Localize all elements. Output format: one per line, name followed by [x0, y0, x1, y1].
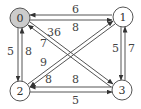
weight-label-0-3: 36 [47, 26, 61, 39]
weight-label-1-2: 8 [45, 73, 52, 86]
graph-diagram: 6 8 36 7 5 8 5 7 9 8 8 5 0 1 2 3 [0, 0, 141, 109]
node-3: 3 [112, 80, 132, 100]
weight-label-1-0: 6 [72, 3, 79, 16]
weight-label-3-1: 7 [128, 42, 135, 55]
weight-label-2-1: 9 [40, 56, 47, 69]
weight-label-2-3: 5 [72, 94, 79, 107]
weight-label-0-2: 5 [7, 45, 14, 58]
node-1: 1 [113, 7, 133, 27]
weight-label-1-3: 5 [112, 42, 119, 55]
node-2-label: 2 [17, 85, 24, 98]
node-0: 0 [10, 8, 30, 28]
node-2: 2 [10, 81, 30, 101]
weight-label-2-0: 8 [25, 45, 32, 58]
weight-label-3-0: 7 [40, 37, 47, 50]
weight-label-0-1: 8 [72, 21, 79, 34]
node-3-label: 3 [119, 84, 126, 97]
node-0-label: 0 [17, 12, 24, 25]
weight-label-3-2: 8 [72, 73, 79, 86]
node-1-label: 1 [120, 11, 127, 24]
